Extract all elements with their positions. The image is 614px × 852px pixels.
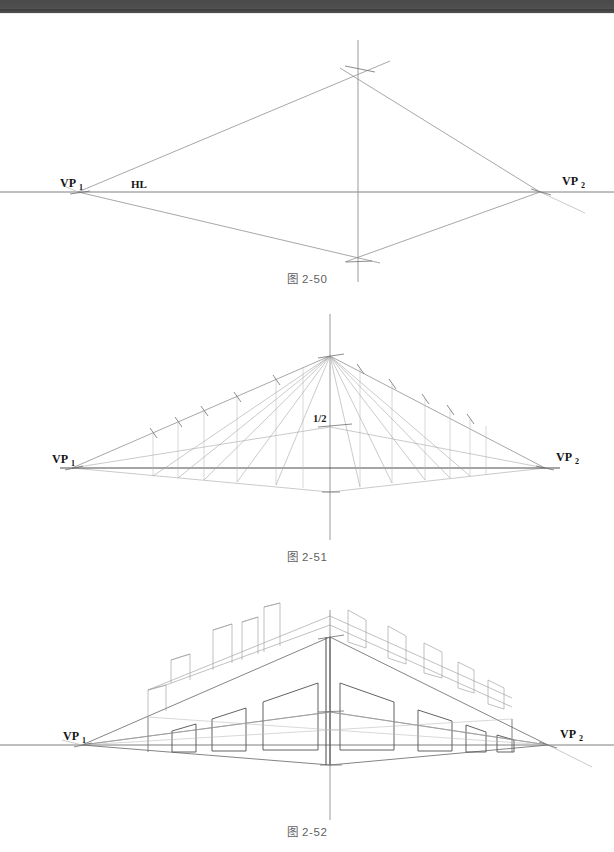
ray-vp1-to-apex-top <box>78 61 390 192</box>
left-roof-massing <box>148 603 330 717</box>
roof-block-r2-top <box>388 626 406 636</box>
right-bay-verticals <box>360 369 486 487</box>
ray-overshoot-right <box>548 745 592 767</box>
apex-diag-l1 <box>153 356 330 476</box>
roof-block-r3 <box>424 643 442 678</box>
roof-block-r1 <box>348 610 366 648</box>
apex-diag-r5 <box>330 356 470 476</box>
midline-right <box>330 427 545 468</box>
roof-ribbon-right <box>330 616 512 698</box>
figure-2-52: VP 1 VP 2 图 2-52 <box>0 580 614 852</box>
vp1-subscript: 1 <box>79 183 83 192</box>
roof-block-l5-top <box>264 603 280 607</box>
figure-2-52-canvas: VP 1 VP 2 <box>0 580 614 852</box>
roof-ribbon-right-inner <box>330 625 512 707</box>
eave-tick-r5 <box>467 414 474 424</box>
apex-diag-r4 <box>330 356 450 478</box>
base-right <box>330 745 548 765</box>
ray-vp2-to-apex-top <box>340 68 540 192</box>
vp1-label: VP <box>63 729 79 743</box>
right-apex-diagonals <box>330 356 470 487</box>
roof-block-r5-top <box>488 680 504 688</box>
guide-ray-cross-right <box>82 719 512 745</box>
figure-2-50-caption: 图 2-50 <box>0 270 614 286</box>
window-l1 <box>172 724 196 752</box>
roof-ribbon-left <box>148 616 330 690</box>
eave-tick-r3 <box>422 394 429 404</box>
eave-right <box>330 356 545 468</box>
vp2-subscript: 2 <box>581 181 585 190</box>
guide-ray-cross-left <box>148 717 548 745</box>
vp1-label: VP <box>52 452 68 466</box>
base-right <box>330 468 545 492</box>
figure-2-51: VP 1 VP 2 1/2 图 2-51 <box>0 300 614 580</box>
window-r3 <box>466 725 486 752</box>
midline-left <box>72 427 330 468</box>
roof-block-r1-top <box>348 610 366 620</box>
figure-2-51-caption: 图 2-51 <box>0 548 614 564</box>
roof-block-l3-top <box>213 624 232 630</box>
midpoint-tick <box>318 424 352 427</box>
roof-block-r4-top <box>458 662 474 670</box>
vp1-subscript: 1 <box>71 459 75 468</box>
ray-vp2-to-apex-bottom <box>345 192 540 262</box>
vp2-label: VP <box>560 727 576 741</box>
eave-tick-r1 <box>357 364 364 374</box>
left-eave-ticks <box>150 375 280 438</box>
roof-block-l3 <box>213 624 232 670</box>
figure-2-52-caption: 图 2-52 <box>0 823 614 839</box>
right-roof-massing <box>330 610 512 709</box>
left-facade-windows <box>172 683 318 752</box>
ray-overshoot-right <box>540 192 585 213</box>
eave-left <box>72 356 330 468</box>
window-r1 <box>340 683 394 750</box>
left-apex-diagonals <box>153 356 330 485</box>
vp2-label: VP <box>556 450 572 464</box>
left-bay-verticals <box>153 368 303 488</box>
roof-block-l2-top <box>171 654 190 660</box>
half-division-label: 1/2 <box>313 413 326 424</box>
vp2-subscript: 2 <box>575 457 579 466</box>
figure-2-51-canvas: VP 1 VP 2 1/2 <box>0 300 614 580</box>
eave-tick-l2 <box>175 417 182 427</box>
horizon-label: HL <box>131 178 147 190</box>
roof-block-r3-top <box>424 643 442 652</box>
vp1-label: VP <box>60 176 76 190</box>
roof-block-l4-top <box>242 617 258 622</box>
figure-2-50: VP 1 HL VP 2 图 2-50 <box>0 0 614 300</box>
base-left <box>72 468 330 492</box>
vp2-label: VP <box>562 174 578 188</box>
roof-ribbon-left-inner <box>166 625 330 685</box>
base-left <box>82 745 330 765</box>
roof-block-l5 <box>264 603 280 652</box>
ray-vp1-to-apex-bottom <box>78 192 380 263</box>
eave-tick-l3 <box>201 406 208 416</box>
apex-bottom-tick <box>346 261 372 262</box>
apex-diag-l3 <box>204 356 330 480</box>
eave-tick-l1 <box>150 428 157 438</box>
vp1-subscript: 1 <box>82 736 86 745</box>
roof-block-l2 <box>171 654 190 683</box>
apex-diag-l2 <box>178 356 330 478</box>
vp2-subscript: 2 <box>579 734 583 743</box>
window-l3 <box>263 683 318 750</box>
apex-diag-r2 <box>330 356 392 483</box>
roof-block-l4 <box>242 617 258 660</box>
figure-2-50-canvas: VP 1 HL VP 2 <box>0 0 614 300</box>
near-corner-top-tick <box>318 635 344 639</box>
eave-tick-r4 <box>447 405 454 415</box>
